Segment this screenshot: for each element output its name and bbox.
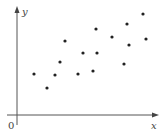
data-point <box>63 39 66 42</box>
x-axis-label: x <box>151 120 157 131</box>
data-point <box>95 51 98 54</box>
data-point <box>76 72 79 75</box>
x-axis-arrow-icon <box>152 113 159 118</box>
data-point <box>32 72 35 75</box>
scatter-plot: y x 0 <box>0 0 160 135</box>
data-point <box>45 86 48 89</box>
data-point <box>144 37 147 40</box>
origin-label: 0 <box>8 120 14 131</box>
y-axis-label: y <box>21 6 28 17</box>
data-point <box>58 60 61 63</box>
data-point <box>122 62 125 65</box>
data-point <box>141 12 144 15</box>
axes: y x 0 <box>7 6 159 131</box>
data-point <box>91 69 94 72</box>
data-point <box>53 73 56 76</box>
data-point <box>81 51 84 54</box>
data-point <box>94 27 97 30</box>
data-point <box>110 35 113 38</box>
data-points <box>32 12 147 89</box>
y-axis-arrow-icon <box>15 6 20 13</box>
data-point <box>125 22 128 25</box>
data-point <box>127 43 130 46</box>
